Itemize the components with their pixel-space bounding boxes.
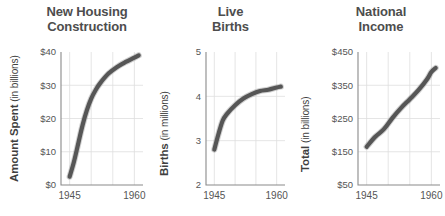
svg-text:1945: 1945 — [356, 190, 379, 201]
chart-panel-live-births: Live Births Births (in millions) 2345194… — [150, 0, 295, 216]
svg-text:$150: $150 — [332, 146, 353, 157]
chart-title-line-2: Income — [319, 19, 443, 34]
chart-title-line-1: New Housing — [26, 4, 148, 19]
data-curve — [367, 68, 436, 147]
svg-text:$450: $450 — [332, 46, 353, 57]
data-curve-shadow — [70, 55, 139, 176]
plot-area-new-housing-construction: $0$10$20$30$4019451960 — [0, 38, 150, 210]
svg-text:$40: $40 — [40, 46, 56, 57]
three-line-charts-figure: New Housing Construction Amount Spent (i… — [0, 0, 445, 216]
svg-text:1960: 1960 — [266, 190, 289, 201]
chart-title-line-2: Births — [172, 19, 289, 34]
svg-text:4: 4 — [196, 91, 201, 102]
data-curve — [70, 55, 139, 176]
svg-text:1945: 1945 — [59, 190, 82, 201]
svg-text:$20: $20 — [40, 113, 56, 124]
chart-title-live-births: Live Births — [172, 4, 289, 34]
chart-title-line-1: Live — [172, 4, 289, 19]
svg-text:1960: 1960 — [123, 190, 146, 201]
chart-title-line-1: National — [319, 4, 443, 19]
chart-title-new-housing-construction: New Housing Construction — [26, 4, 148, 34]
svg-text:5: 5 — [196, 46, 201, 57]
plot-area-live-births: 234519451960 — [150, 38, 295, 210]
svg-text:1960: 1960 — [420, 190, 443, 201]
svg-text:$50: $50 — [337, 179, 353, 190]
svg-text:2: 2 — [196, 179, 201, 190]
chart-title-national-income: National Income — [319, 4, 443, 34]
svg-text:$250: $250 — [332, 113, 353, 124]
chart-title-line-2: Construction — [26, 19, 148, 34]
svg-text:3: 3 — [196, 135, 201, 146]
plot-area-national-income: $50$150$250$350$45019451960 — [295, 38, 445, 210]
svg-text:$0: $0 — [45, 179, 56, 190]
chart-panel-national-income: National Income Total (in billions) $50$… — [295, 0, 445, 216]
svg-text:$30: $30 — [40, 80, 56, 91]
svg-text:$350: $350 — [332, 80, 353, 91]
svg-text:1945: 1945 — [203, 190, 226, 201]
chart-panel-new-housing-construction: New Housing Construction Amount Spent (i… — [0, 0, 150, 216]
svg-text:$10: $10 — [40, 146, 56, 157]
